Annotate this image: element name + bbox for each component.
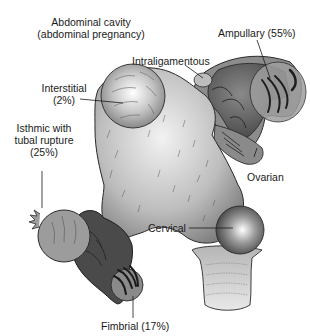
label-cervical: Cervical [148, 222, 186, 234]
label-interstitial-line2: (2%) [38, 94, 90, 106]
label-isthmic: Isthmic with tubal rupture (25%) [12, 122, 76, 158]
label-ampullary: Ampullary (55%) [218, 27, 296, 39]
label-abdominal-line1: Abdominal cavity [36, 16, 146, 28]
label-interstitial-line1: Interstitial [38, 82, 90, 94]
intraligamentous-bulge [194, 73, 212, 87]
label-interstitial: Interstitial (2%) [38, 82, 90, 106]
label-abdominal-line2: (abdominal pregnancy) [36, 28, 146, 40]
label-abdominal-cavity: Abdominal cavity (abdominal pregnancy) [36, 16, 146, 40]
label-isthmic-line1: Isthmic with [12, 122, 76, 134]
interstitial-sac [101, 64, 165, 128]
label-fimbrial: Fimbrial (17%) [101, 320, 169, 332]
cervical-sac [216, 206, 264, 254]
label-ovarian: Ovarian [247, 171, 284, 183]
label-isthmic-line2: tubal rupture [12, 134, 76, 146]
ectopic-pregnancy-diagram [0, 0, 310, 336]
label-intraligamentous: Intraligamentous [132, 55, 210, 67]
isthmic-rupture-sac [38, 210, 90, 262]
label-isthmic-line3: (25%) [12, 146, 76, 158]
